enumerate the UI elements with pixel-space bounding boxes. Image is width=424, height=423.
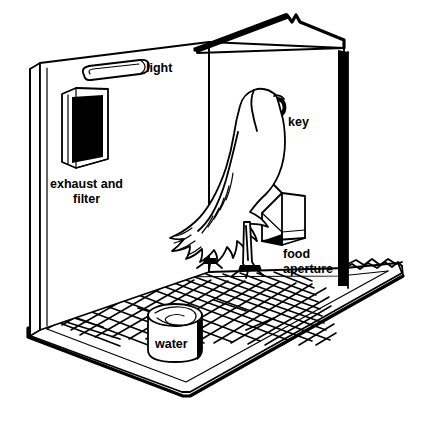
skinner-box-diagram: light exhaust and filter food ape (0, 0, 424, 423)
food-aperture-label-line1: food (283, 247, 310, 261)
water-dish (148, 304, 202, 362)
food-aperture-label-line2: aperture (283, 262, 333, 276)
exhaust-label-line2: filter (73, 192, 100, 206)
key-label: key (288, 115, 309, 129)
water-label: water (154, 337, 188, 351)
exhaust-label-line1: exhaust and (50, 177, 123, 191)
light-label: light (146, 61, 173, 75)
skinner-box-figure: light exhaust and filter food ape (0, 0, 424, 423)
exhaust-and-filter-vent (62, 88, 108, 168)
